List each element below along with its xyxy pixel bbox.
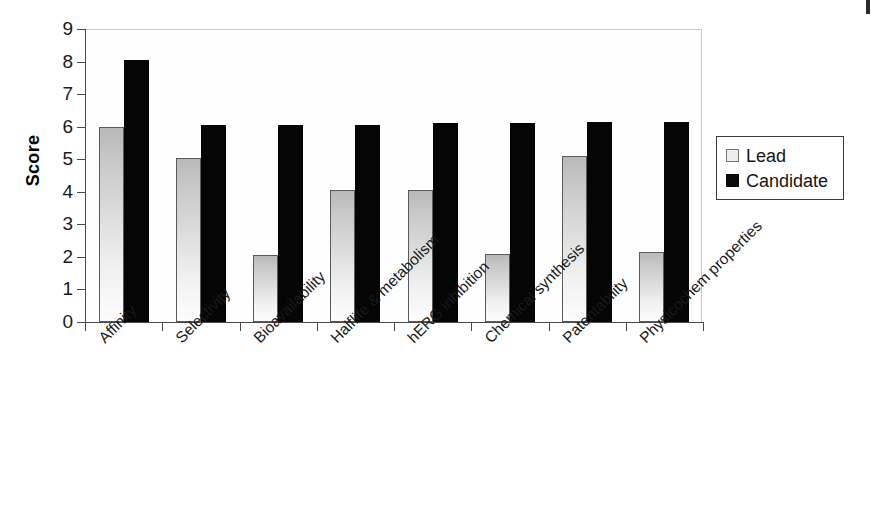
y-tick-label: 5: [45, 149, 73, 168]
y-tick-label: 9: [45, 19, 73, 38]
y-tick-label: 7: [45, 84, 73, 103]
x-tick-mark: [240, 322, 241, 331]
legend-label-lead: Lead: [746, 147, 786, 165]
legend-item-candidate[interactable]: Candidate: [726, 168, 843, 193]
legend-swatch-candidate-icon: [726, 174, 739, 187]
y-tick-mark: [77, 322, 85, 323]
x-tick-mark: [703, 322, 704, 331]
y-tick-mark: [77, 94, 85, 95]
x-tick-mark: [626, 322, 627, 331]
y-tick-label: 3: [45, 214, 73, 233]
chart-root: Score 0123456789 AffinitySelectivityBioa…: [0, 0, 871, 521]
scan-artifact: [866, 0, 870, 14]
y-tick-label: 0: [45, 312, 73, 331]
bar-candidate: [124, 60, 149, 322]
bar-lead: [176, 158, 201, 322]
y-tick-label: 4: [45, 182, 73, 201]
y-tick-mark: [77, 62, 85, 63]
bar-lead: [99, 127, 124, 322]
y-tick-label: 1: [45, 279, 73, 298]
x-tick-mark: [162, 322, 163, 331]
y-tick-label: 6: [45, 117, 73, 136]
x-tick-mark: [317, 322, 318, 331]
bar-lead: [330, 190, 355, 322]
y-tick-mark: [77, 224, 85, 225]
y-tick-mark: [77, 192, 85, 193]
y-tick-mark: [77, 289, 85, 290]
y-tick-mark: [77, 159, 85, 160]
x-tick-mark: [394, 322, 395, 331]
y-tick-label: 2: [45, 247, 73, 266]
legend-swatch-lead-icon: [726, 149, 739, 162]
y-tick-mark: [77, 257, 85, 258]
y-tick-mark: [77, 127, 85, 128]
x-tick-mark: [549, 322, 550, 331]
legend-label-candidate: Candidate: [746, 172, 828, 190]
y-tick-mark: [77, 29, 85, 30]
x-tick-mark: [471, 322, 472, 331]
y-tick-label: 8: [45, 52, 73, 71]
x-tick-mark: [85, 322, 86, 331]
y-axis-title: Score: [23, 116, 44, 206]
legend-item-lead[interactable]: Lead: [726, 143, 843, 168]
legend: Lead Candidate: [716, 136, 844, 200]
